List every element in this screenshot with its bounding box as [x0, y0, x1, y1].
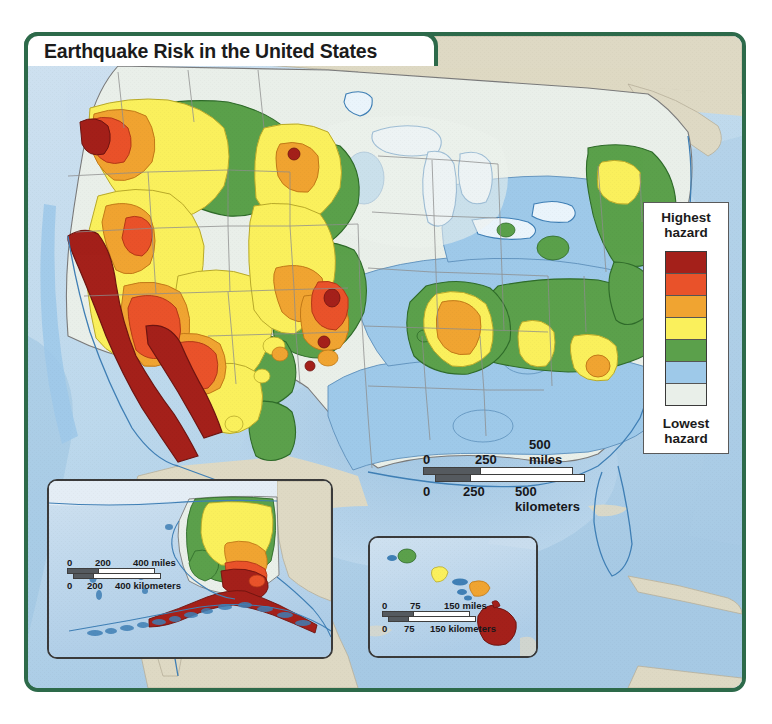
alaska-scale-bars: [67, 568, 189, 579]
alaska-inset: 0 200 400 miles 0 200: [47, 479, 333, 659]
legend-band-low-moderate-hazard: [666, 340, 706, 362]
main-scale-bar: 0 250 500 miles 0 250 500 kilometers: [423, 450, 597, 499]
alaska-scale-bar: 0 200 400 miles 0 200: [67, 555, 189, 592]
main-scale-bars: [423, 467, 597, 482]
alaska-scale-km-ticks: 0 200 400 kilometers: [67, 579, 189, 592]
legend-band-very-high-hazard: [666, 274, 706, 296]
hawaii-paper-texture: [370, 538, 536, 656]
hawaii-scale-bar: 0 75 150 miles 0 75: [382, 598, 500, 635]
legend-band-lowest-hazard: [666, 384, 706, 405]
alaska-scale-miles-ticks: 0 200 400 miles: [67, 555, 183, 568]
hawaii-scale-miles-ticks: 0 75 150 miles: [382, 598, 494, 611]
map-frame: Highest hazard Lowest hazard 0 250: [24, 32, 746, 692]
legend-band-high-hazard: [666, 296, 706, 318]
main-scale-miles-ticks: 0 250 500 miles: [423, 450, 573, 467]
main-scale-km-ticks: 0 250 500 kilometers: [423, 482, 597, 499]
map-page: Highest hazard Lowest hazard 0 250: [0, 0, 772, 724]
page-title: Earthquake Risk in the United States: [28, 40, 377, 63]
main-scale-bar-kilometers: [435, 474, 585, 482]
legend-band-highest-hazard: [666, 252, 706, 274]
hawaii-scale-bars: [382, 611, 500, 622]
map-title-tab: Earthquake Risk in the United States: [24, 32, 438, 66]
hawaii-scale-km-ticks: 0 75 150 kilometers: [382, 622, 500, 635]
hawaii-hazard-map: [370, 538, 536, 656]
hawaii-inset: 0 75 150 miles 0 75: [368, 536, 538, 658]
legend-band-moderate-hazard: [666, 318, 706, 340]
legend-band-low-hazard: [666, 362, 706, 384]
legend-highest-label: Highest hazard: [661, 210, 711, 240]
hazard-legend: Highest hazard Lowest hazard: [643, 202, 729, 454]
legend-lowest-label: Lowest hazard: [663, 416, 710, 446]
legend-color-ramp: [665, 251, 707, 406]
